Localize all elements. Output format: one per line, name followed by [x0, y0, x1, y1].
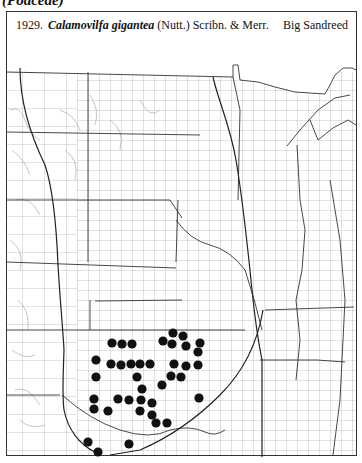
occurrence-dot: [89, 404, 98, 413]
occurrence-dot: [181, 341, 190, 350]
occurrence-dot: [151, 418, 160, 427]
occurrence-dot: [166, 371, 175, 380]
occurrence-dot: [113, 394, 122, 403]
occurrence-dot: [127, 339, 136, 348]
occurrence-dot: [147, 398, 156, 407]
occurrence-dot: [135, 406, 144, 415]
occurrence-dot: [193, 360, 202, 369]
occurrence-dot: [103, 406, 112, 415]
occurrence-dot: [91, 372, 100, 381]
occurrence-dot: [91, 355, 100, 364]
occurrence-dot: [83, 437, 92, 446]
occurrence-dot: [135, 359, 144, 368]
occurrence-dot: [93, 447, 102, 456]
occurrence-dot: [158, 336, 167, 345]
occurrence-dot: [162, 418, 171, 427]
occurrence-dot: [107, 338, 116, 347]
occurrence-dot: [178, 331, 187, 340]
occurrence-dot: [169, 359, 178, 368]
occurrence-dot: [124, 439, 133, 448]
occurrence-dot: [176, 372, 185, 381]
occurrence-dot: [194, 393, 203, 402]
occurrence-dot: [167, 339, 176, 348]
occurrence-dot: [89, 394, 98, 403]
occurrence-dot: [195, 338, 204, 347]
occurrence-dot: [137, 384, 146, 393]
occurrence-dot: [117, 339, 126, 348]
occurrence-dot: [157, 380, 166, 389]
occurrence-dot: [132, 372, 141, 381]
occurrence-dot: [193, 347, 202, 356]
occurrence-dot: [145, 359, 154, 368]
occurrence-dot: [181, 361, 190, 370]
occurrence-dot: [116, 360, 125, 369]
occurrence-dot: [124, 395, 133, 404]
distribution-map: [0, 0, 362, 463]
occurrence-dot: [168, 328, 177, 337]
occurrence-dot: [136, 395, 145, 404]
occurrence-dot: [126, 359, 135, 368]
occurrence-dot: [106, 359, 115, 368]
occurrence-dot: [147, 410, 156, 419]
